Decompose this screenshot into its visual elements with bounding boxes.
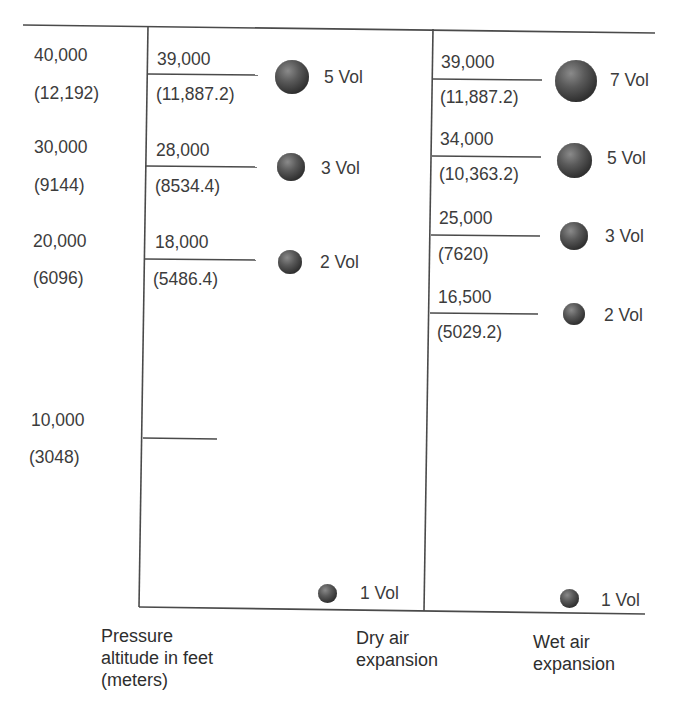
dry-gas-bubble-1vol: [318, 584, 337, 603]
wet-volume-label-2vol: 2 Vol: [604, 305, 643, 325]
wet-meters-25000: (7620): [438, 244, 489, 264]
dry-air-caption: Dry air expansion: [356, 627, 438, 671]
wet-meters-16500: (5029.2): [437, 322, 502, 342]
altitude-axis-line: [139, 26, 148, 607]
wet-gas-bubble-3vol: [560, 222, 588, 250]
wet-feet-39000: 39,000: [441, 52, 495, 72]
wet-meters-39000: (11,887.2): [440, 87, 518, 107]
wet-volume-label-5vol: 5 Vol: [607, 148, 646, 168]
wet-gas-bubble-5vol: [557, 143, 592, 178]
wet-volume-label-3vol: 3 Vol: [605, 226, 644, 246]
altitude-feet-20000: 20,000: [33, 231, 87, 251]
dry-level-line-39000: [148, 74, 258, 75]
wet-level-line-16500: [430, 313, 538, 314]
wet-gas-bubble-2vol: [563, 303, 585, 325]
wet-air-caption: Wet air expansion: [533, 631, 615, 675]
wet-volume-label-7vol: 7 Vol: [610, 70, 649, 90]
diagram-frame-lines: [0, 0, 676, 720]
wet-level-line-25000: [431, 235, 540, 236]
altitude-meters-10000: (3048): [29, 447, 80, 467]
altitude-line-10000: [143, 438, 217, 439]
dry-meters-39000: (11,887.2): [156, 84, 234, 104]
wet-level-line-34000: [432, 156, 541, 157]
wet-feet-34000: 34,000: [440, 129, 494, 149]
dry-level-line-18000: [145, 259, 256, 260]
dry-gas-bubble-5vol: [275, 60, 309, 94]
wet-feet-16500: 16,500: [438, 287, 492, 307]
dry-meters-18000: (5486.4): [153, 269, 218, 289]
dry-volume-label-1vol: 1 Vol: [360, 583, 399, 603]
wet-gas-bubble-7vol: [555, 60, 597, 102]
dry-volume-label-5vol: 5 Vol: [324, 67, 363, 87]
wet-gas-bubble-1vol: [560, 589, 579, 608]
altitude-meters-30000: (9144): [34, 175, 85, 195]
gas-expansion-diagram: 40,000 (12,192) 30,000 (9144) 20,000 (60…: [0, 0, 676, 720]
bottom-border-line: [139, 607, 645, 614]
dry-feet-39000: 39,000: [157, 49, 211, 69]
altitude-feet-30000: 30,000: [34, 137, 88, 157]
altitude-meters-20000: (6096): [33, 268, 84, 288]
altitude-feet-10000: 10,000: [31, 410, 85, 430]
dry-gas-bubble-2vol: [278, 250, 302, 274]
dry-feet-28000: 28,000: [156, 140, 210, 160]
altitude-axis-caption: Pressure altitude in feet (meters): [101, 625, 213, 691]
wet-meters-34000: (10,363.2): [439, 164, 519, 184]
wet-feet-25000: 25,000: [439, 208, 493, 228]
dry-volume-label-2vol: 2 Vol: [320, 252, 359, 272]
dry-level-line-28000: [146, 166, 257, 167]
wet-level-line-39000: [433, 79, 542, 80]
dry-volume-label-3vol: 3 Vol: [321, 158, 360, 178]
dry-meters-28000: (8534.4): [155, 176, 220, 196]
column-divider-line: [424, 29, 433, 611]
top-border-line: [23, 25, 655, 33]
dry-gas-bubble-3vol: [277, 153, 305, 181]
dry-feet-18000: 18,000: [155, 232, 209, 252]
altitude-feet-40000: 40,000: [34, 45, 88, 65]
wet-volume-label-1vol: 1 Vol: [601, 590, 640, 610]
altitude-meters-40000: (12,192): [34, 83, 99, 103]
